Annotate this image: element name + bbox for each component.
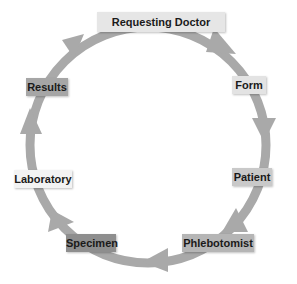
node-patient: Patient (232, 168, 272, 186)
cycle-diagram: Requesting Doctor Form Patient Phlebotom… (0, 0, 297, 284)
node-specimen: Specimen (66, 234, 116, 252)
node-requesting-doctor: Requesting Doctor (97, 12, 225, 32)
node-form: Form (232, 76, 266, 94)
arrowhead-icon (252, 118, 276, 142)
node-results: Results (26, 78, 68, 96)
node-laboratory: Laboratory (14, 170, 72, 188)
arrowhead-icon (142, 248, 168, 272)
node-phlebotomist: Phlebotomist (182, 234, 254, 252)
